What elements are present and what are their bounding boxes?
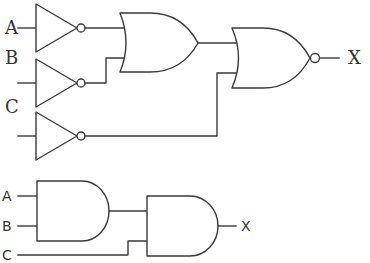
logic-circuit-diagram: A B C X: [0, 0, 370, 263]
label-input-b-bottom: B: [2, 218, 12, 234]
label-input-c: C: [5, 96, 19, 117]
wire-not-c-to-nor: [85, 73, 238, 136]
not-gate-a-bubble: [77, 24, 85, 32]
wire-not-b-to-or: [85, 58, 125, 83]
label-output-x: X: [348, 47, 361, 68]
nor-gate: [232, 28, 320, 88]
and-gate-2: [147, 196, 218, 256]
not-gate-b-bubble: [77, 79, 85, 87]
not-gate-c: [36, 112, 85, 160]
not-gate-a-body: [36, 4, 77, 52]
label-input-b: B: [5, 47, 18, 68]
label-output-x-bottom: X: [241, 218, 251, 234]
nor-gate-bubble: [311, 54, 320, 63]
top-circuit: A B C X: [4, 4, 361, 160]
or-gate: [120, 13, 198, 72]
label-input-a: A: [4, 17, 19, 38]
not-gate-b-body: [36, 59, 77, 107]
wire-input-c-bottom: [18, 241, 147, 255]
label-input-a-bottom: A: [2, 188, 12, 204]
not-gate-c-body: [36, 112, 77, 160]
not-gate-b: [36, 59, 85, 107]
and-gate-1: [37, 181, 109, 241]
nor-gate-body: [232, 28, 310, 88]
not-gate-c-bubble: [77, 132, 85, 140]
bottom-circuit: A B C X: [2, 181, 251, 263]
label-input-c-bottom: C: [2, 247, 12, 263]
not-gate-a: [36, 4, 85, 52]
